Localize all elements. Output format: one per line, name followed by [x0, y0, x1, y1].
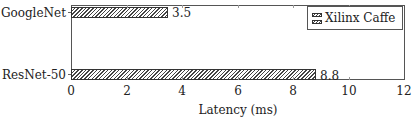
bar-value-label-resnet50: 8.8: [320, 70, 339, 82]
hatch-swatch-icon: [312, 13, 322, 24]
x-tick: [238, 5, 239, 8]
bar-resnet50: [71, 69, 316, 80]
x-tick: [127, 77, 128, 80]
legend-label: Xilinx Caffe: [325, 12, 395, 24]
category-label-googlenet: GoogleNet: [1, 7, 66, 19]
x-tick-label: 10: [339, 85, 359, 97]
x-tick: [349, 77, 350, 80]
x-tick-label: 2: [117, 85, 137, 97]
bar-googlenet: [71, 7, 168, 18]
x-tick: [293, 77, 294, 80]
x-tick: [182, 5, 183, 8]
x-tick: [293, 5, 294, 8]
x-tick-label: 6: [228, 85, 248, 97]
category-label-resnet50: ResNet-50: [2, 69, 66, 81]
legend: Xilinx Caffe: [307, 6, 403, 30]
x-tick: [182, 77, 183, 80]
x-tick: [127, 5, 128, 8]
x-tick-label: 8: [283, 85, 303, 97]
bar-value-label-googlenet: 3.5: [172, 7, 191, 19]
x-tick: [238, 77, 239, 80]
x-tick-label: 4: [172, 85, 192, 97]
x-axis-label: Latency (ms): [0, 104, 412, 116]
x-tick-label: 0: [61, 85, 81, 97]
x-tick-label: 12: [394, 85, 412, 97]
